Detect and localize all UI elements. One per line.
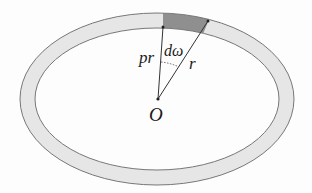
- origin-point: [156, 97, 159, 100]
- diagram-canvas: pr dω r O: [0, 0, 312, 193]
- outer-edge-point: [207, 20, 210, 23]
- label-angle: dω: [164, 43, 183, 59]
- label-outer-radius: r: [189, 55, 196, 72]
- outer-radius-line: [158, 21, 208, 99]
- angle-arc: [161, 62, 179, 67]
- ring-diagram: [0, 0, 312, 193]
- inner-edge-point: [162, 26, 165, 29]
- inner-radius-line: [158, 27, 163, 99]
- label-origin: O: [149, 105, 163, 124]
- label-inner-radius: pr: [139, 49, 154, 66]
